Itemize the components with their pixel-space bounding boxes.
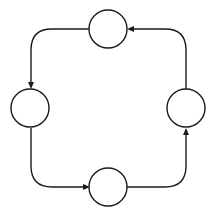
arrowhead-into-right: [183, 128, 189, 135]
edge-bottom-to-right: [127, 135, 186, 187]
cycle-diagram: [0, 0, 214, 215]
edge-right-to-top: [134, 29, 186, 89]
node-top[interactable]: [89, 10, 127, 48]
node-bottom[interactable]: [89, 168, 127, 206]
nodes: [11, 10, 205, 206]
node-right[interactable]: [167, 89, 205, 127]
arrowhead-into-left: [28, 82, 34, 89]
node-left[interactable]: [11, 89, 49, 127]
edge-top-to-left: [31, 29, 89, 82]
edges: [28, 26, 189, 190]
arrowhead-into-top: [127, 26, 134, 32]
edge-left-to-bottom: [31, 128, 83, 187]
